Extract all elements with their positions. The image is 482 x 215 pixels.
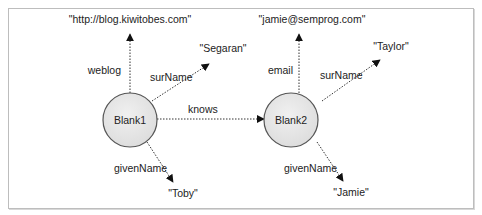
edge-givenname-blank2: givenName <box>284 142 343 181</box>
edge-label-email: email <box>268 64 293 76</box>
edge-knows: knows <box>157 103 264 119</box>
node-blank2: Blank2 <box>264 93 318 147</box>
edge-surname-blank2: surName <box>320 60 380 101</box>
literal-weblog: "http://blog.kiwitobes.com" <box>69 13 192 25</box>
edge-email: email <box>268 34 299 93</box>
literal-segaran: "Segaran" <box>199 42 246 54</box>
edge-weblog: weblog <box>87 34 130 93</box>
edge-label-weblog: weblog <box>87 64 121 76</box>
edge-label-surname-2: surName <box>320 69 363 81</box>
node-label-blank2: Blank2 <box>275 114 307 126</box>
edge-label-givenname-1: givenName <box>114 162 167 174</box>
edge-label-surname-1: surName <box>150 71 193 83</box>
edge-label-knows: knows <box>188 103 218 115</box>
literal-jamie: "Jamie" <box>333 186 369 198</box>
edge-givenname-blank1: givenName <box>114 142 173 182</box>
rdf-graph-diagram: weblog surName givenName knows email sur… <box>0 0 482 215</box>
literal-email: "jamie@semprog.com" <box>259 13 366 25</box>
edge-label-givenname-2: givenName <box>284 162 337 174</box>
node-blank1: Blank1 <box>103 93 157 147</box>
literal-toby: "Toby" <box>168 187 198 199</box>
edge-surname-blank1: surName <box>150 64 209 101</box>
literal-taylor: "Taylor" <box>373 40 409 52</box>
node-label-blank1: Blank1 <box>114 114 146 126</box>
